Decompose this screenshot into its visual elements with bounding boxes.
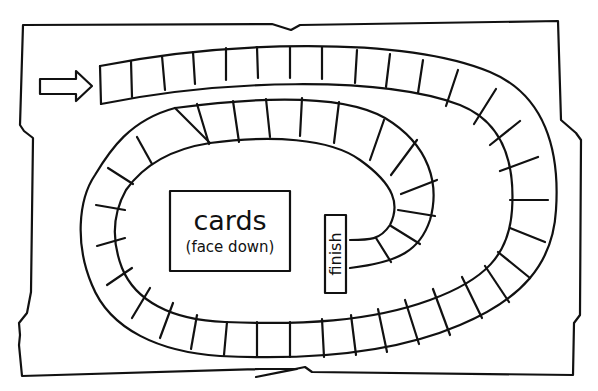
finish-label: finish xyxy=(326,232,345,275)
game-board: cards (face down) finish xyxy=(0,0,598,391)
cards-label: cards xyxy=(193,205,266,236)
track-outer-edge xyxy=(81,46,557,357)
track-outer-inner-edge xyxy=(101,84,512,323)
arrow-right-icon xyxy=(40,71,92,101)
cards-sublabel: (face down) xyxy=(186,238,275,256)
